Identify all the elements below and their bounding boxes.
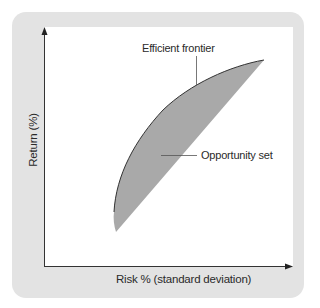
opportunity-set-label: Opportunity set — [201, 149, 273, 161]
x-axis-label: Risk % (standard deviation) — [116, 273, 251, 285]
efficient-frontier-label: Efficient frontier — [142, 42, 215, 54]
opportunity-set-region — [114, 60, 264, 232]
y-axis-arrow-icon — [42, 27, 48, 35]
y-axis-label: Return (%) — [27, 113, 39, 167]
x-axis-arrow-icon — [285, 264, 293, 270]
